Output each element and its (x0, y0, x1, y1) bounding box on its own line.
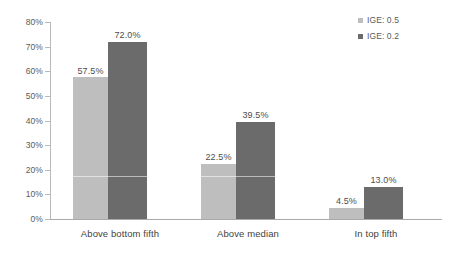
bar-above-median-ige-02 (236, 122, 275, 219)
plot-area: 57.5% 72.0% 22.5% 39.5% 4.5% 13.0% (50, 22, 442, 219)
bar-value-label-above-bottom-fifth-ige-05: 57.5% (63, 66, 118, 76)
bar-value-label-above-bottom-fifth-ige-02: 72.0% (100, 30, 155, 40)
bar-chart: IGE: 0.5 IGE: 0.2 0% 10% 20% 30% 40% 50%… (0, 0, 452, 255)
faint-gridline (51, 176, 442, 177)
y-tick-label-60: 60% (3, 66, 43, 76)
x-category-label-in-top-fifth: In top fifth (306, 228, 446, 239)
x-axis-line (50, 219, 442, 220)
y-tick-label-10: 10% (3, 189, 43, 199)
x-category-label-above-median: Above median (178, 228, 318, 239)
y-tick-label-40: 40% (3, 116, 43, 126)
bar-above-median-ige-05 (201, 164, 236, 219)
y-tick-label-30: 30% (3, 140, 43, 150)
bar-value-label-above-median-ige-02: 39.5% (228, 110, 283, 120)
y-tick-label-50: 50% (3, 91, 43, 101)
y-tick-label-70: 70% (3, 42, 43, 52)
bar-in-top-fifth-ige-05 (329, 208, 364, 219)
x-category-label-above-bottom-fifth: Above bottom fifth (50, 228, 190, 239)
y-tick-label-20: 20% (3, 165, 43, 175)
y-tick-label-80: 80% (3, 17, 43, 27)
bar-value-label-above-median-ige-05: 22.5% (191, 152, 246, 162)
y-tick-label-0: 0% (3, 214, 43, 224)
bar-above-bottom-fifth-ige-05 (73, 77, 108, 219)
bar-value-label-in-top-fifth-ige-05: 4.5% (319, 196, 374, 206)
